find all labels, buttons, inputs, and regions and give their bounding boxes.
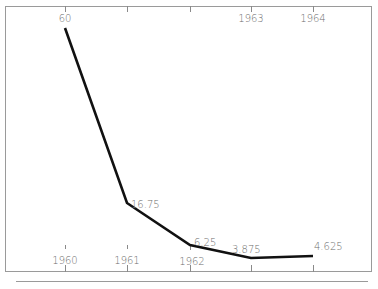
x-tick-label: 1960 (52, 255, 77, 266)
category-tick-marks (66, 245, 191, 250)
x-tick-label: 1961 (114, 255, 139, 266)
data-line (65, 28, 313, 258)
top-label: 1964 (300, 13, 325, 24)
x-tick-label: 1962 (179, 256, 204, 267)
line-chart: 60 1963 1964 1960 1961 1962 16.75 6.25 3… (0, 0, 378, 289)
top-label: 1963 (238, 13, 263, 24)
data-label: 6.25 (194, 237, 216, 248)
data-label: 3.875 (232, 244, 261, 255)
top-label: 60 (59, 13, 72, 24)
plot-frame (6, 7, 372, 272)
data-label: 4.625 (314, 241, 343, 252)
data-label: 16.75 (131, 199, 160, 210)
